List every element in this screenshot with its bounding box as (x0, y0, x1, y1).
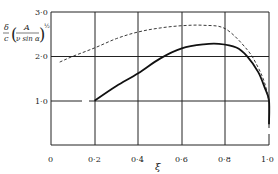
y-label-exponent: ½ (44, 22, 50, 29)
grid (51, 12, 269, 145)
chart: 0 0·2 0·4 0·6 0·8 1·0 1·0 2·0 3·0 ξ δ c … (0, 0, 278, 174)
x-tick-1.0: 1·0 (261, 155, 274, 164)
y-tick-1.0: 1·0 (35, 97, 48, 106)
x-tick-0.2: 0·2 (88, 155, 101, 164)
y-label-A: A (23, 23, 30, 32)
x-tick-0.8: 0·8 (218, 155, 231, 164)
y-axis-label: δ c ( A ν sin α ) ½ (3, 22, 50, 44)
x-tick-0: 0 (48, 155, 53, 164)
x-axis-label: ξ (155, 161, 161, 172)
y-label-delta: δ (4, 23, 9, 32)
y-tick-3.0: 3·0 (35, 8, 48, 17)
x-tick-0.4: 0·4 (131, 155, 144, 164)
y-label-c: c (4, 34, 9, 43)
y-tick-2.0: 2·0 (35, 52, 48, 61)
x-tick-0.6: 0·6 (175, 155, 188, 164)
dashed-curve (60, 25, 269, 101)
y-label-denominator: ν sin α (16, 35, 40, 43)
